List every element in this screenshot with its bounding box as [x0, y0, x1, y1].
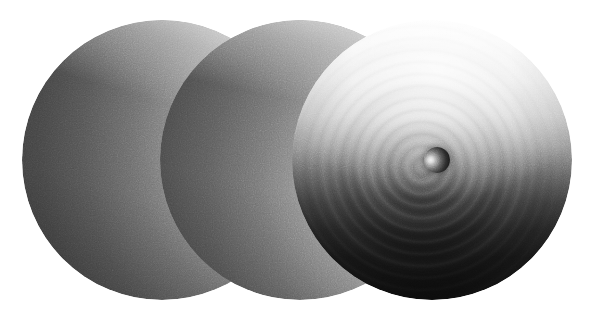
- figure-canvas: [0, 0, 605, 318]
- embedded-sphere: [424, 147, 450, 173]
- sphere-panel-3: [292, 20, 572, 300]
